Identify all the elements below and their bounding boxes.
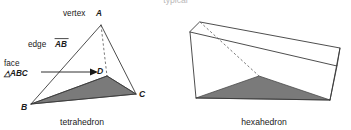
vertex-label-D: D — [97, 66, 103, 76]
edge-annotation-letters: AB — [54, 40, 67, 49]
vertex-label-C: C — [139, 89, 146, 99]
hexahedron-shaded-bottom-face — [196, 76, 330, 100]
hexahedron-caption: hexahedron — [241, 117, 287, 127]
hexahedron-shape — [190, 22, 340, 100]
face-annotation-label: face — [4, 59, 20, 68]
hexahedron-labels: hexahedron — [241, 117, 287, 127]
hexahedron-edge-front-left — [190, 32, 196, 98]
geometry-figure-svg: vertex A edge AB face △ABC B C D tetrahe… — [0, 0, 351, 130]
edge-annotation-label: edge — [28, 40, 47, 49]
vertex-label-B: B — [21, 102, 27, 112]
vertex-annotation-letter: A — [95, 9, 102, 18]
hexahedron-top-face — [190, 22, 340, 66]
tetrahedron-labels: vertex A edge AB face △ABC B C D tetrahe… — [3, 9, 146, 127]
tetrahedron-caption: tetrahedron — [60, 117, 104, 127]
hexahedron-hidden-edge-back — [200, 22, 259, 76]
face-annotation-letters: △ABC — [3, 69, 29, 78]
vertex-annotation-label: vertex — [63, 9, 85, 18]
tetrahedron-shape — [31, 25, 136, 104]
geometry-figure-panel: typical vertex A edge AB face — [0, 0, 351, 130]
tetrahedron-shaded-base-face — [31, 76, 136, 104]
hexahedron-edge-back-right — [330, 48, 340, 100]
